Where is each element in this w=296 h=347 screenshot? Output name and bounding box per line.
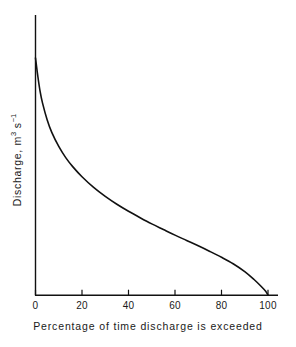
y-label-exponent-3: 3 [9, 132, 18, 136]
chart-plot-area [0, 0, 296, 347]
y-axis-label: Discharge, m3 s−1 [2, 60, 30, 260]
x-tick-label: 40 [123, 300, 135, 311]
x-tick-label: 20 [76, 300, 88, 311]
y-axis-label-text: Discharge, m3 s−1 [9, 114, 23, 207]
x-tick-label: 60 [169, 300, 181, 311]
flow-duration-chart: 020406080100 Discharge, m3 s−1 Percentag… [0, 0, 296, 347]
x-tick-label: 0 [33, 300, 39, 311]
x-tick-label: 80 [216, 300, 228, 311]
axis-lines [35, 15, 278, 296]
flow-duration-curve [36, 58, 269, 295]
x-axis-ticks [36, 290, 269, 296]
y-label-exponent-minus-1: −1 [9, 114, 18, 123]
x-axis-label: Percentage of time discharge is exceeded [0, 320, 296, 332]
x-tick-label: 100 [259, 300, 277, 311]
